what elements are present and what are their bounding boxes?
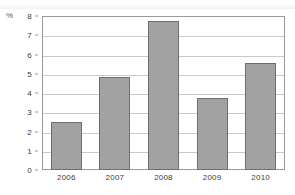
y-tick-mark xyxy=(35,150,38,151)
y-tick-mark xyxy=(35,73,38,74)
bar-slot xyxy=(188,16,237,170)
y-tick-label: 5 xyxy=(27,69,32,78)
bar xyxy=(245,63,276,170)
bar-slot xyxy=(236,16,285,170)
y-tick-label: 2 xyxy=(27,127,32,136)
bars-layer xyxy=(42,16,285,170)
x-axis-tick-labels: 20062007200820092010 xyxy=(42,173,285,183)
bar-slot xyxy=(42,16,91,170)
y-tick-mark xyxy=(35,35,38,36)
y-tick-label: 1 xyxy=(27,146,32,155)
y-tick-mark xyxy=(35,54,38,55)
bar xyxy=(51,122,82,170)
y-tick-mark xyxy=(35,16,38,17)
y-tick-label: 0 xyxy=(27,166,32,175)
y-tick-label: 8 xyxy=(27,12,32,21)
y-tick-label: 6 xyxy=(27,50,32,59)
scan-artifact xyxy=(0,0,295,9)
bar-chart-figure: % 876543210 20062007200820092010 xyxy=(0,0,295,195)
x-tick-label: 2006 xyxy=(42,173,91,183)
y-tick-mark xyxy=(35,112,38,113)
bar xyxy=(148,21,179,170)
bar-slot xyxy=(139,16,188,170)
bar xyxy=(99,77,130,170)
y-tick-mark xyxy=(35,131,38,132)
y-tick-mark xyxy=(35,170,38,171)
y-tick-label: 3 xyxy=(27,108,32,117)
x-tick-label: 2008 xyxy=(139,173,188,183)
bar-slot xyxy=(91,16,140,170)
bar xyxy=(197,98,228,170)
y-axis-tick-labels: 876543210 xyxy=(0,16,38,170)
x-tick-label: 2007 xyxy=(91,173,140,183)
x-tick-label: 2009 xyxy=(188,173,237,183)
y-tick-label: 7 xyxy=(27,31,32,40)
y-tick-label: 4 xyxy=(27,89,32,98)
x-tick-label: 2010 xyxy=(236,173,285,183)
y-tick-mark xyxy=(35,93,38,94)
